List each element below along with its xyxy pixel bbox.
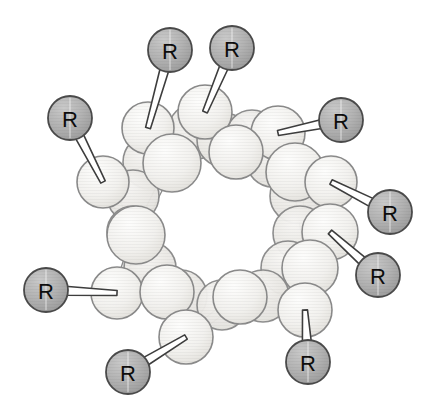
r-group-r-right-lower[interactable]: R xyxy=(356,253,400,297)
r-group-r-top-right-inner[interactable]: R xyxy=(210,26,254,70)
r-group-r-upper-right[interactable]: R xyxy=(319,98,363,142)
r-group-r-bottom-right[interactable]: R xyxy=(286,340,330,384)
r-group-r-left-lower[interactable]: R xyxy=(24,268,68,312)
ring-atom xyxy=(143,134,201,192)
ring-atom xyxy=(213,270,267,324)
r-group-r-right-upper[interactable]: R xyxy=(368,190,412,234)
ring-atom xyxy=(107,206,165,264)
r-group-r-upper-left[interactable]: R xyxy=(48,96,92,140)
molecule-canvas: RRRRRRRRR xyxy=(0,0,439,418)
r-group-r-top-left-inner[interactable]: R xyxy=(148,28,192,72)
molecular-structure-figure: RRRRRRRRR xyxy=(0,0,439,418)
ring-atom xyxy=(209,125,263,179)
r-group-r-bottom-left[interactable]: R xyxy=(106,350,150,394)
